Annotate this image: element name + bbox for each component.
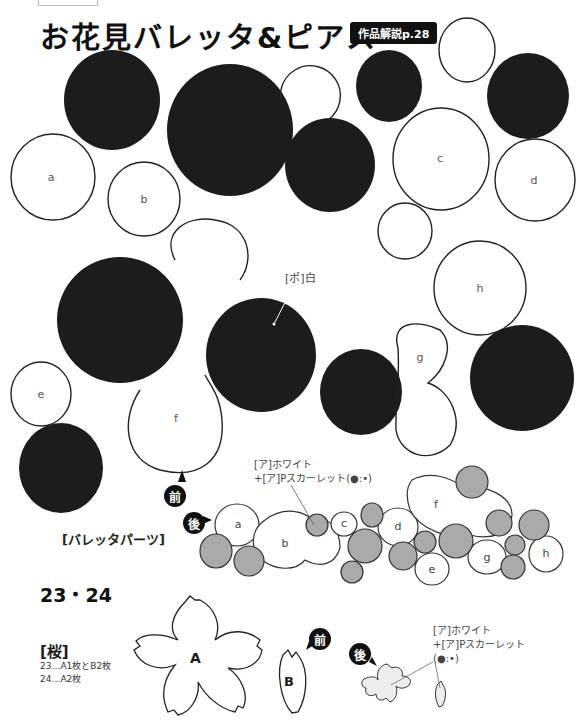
svg-text:h: h xyxy=(477,282,484,295)
sakura-yarn-callout: [ア]ホワイト +[ア]Pスカーレット (●:•) xyxy=(433,624,525,666)
sakura-heading: [桜] xyxy=(40,640,69,661)
barrette-yarn-callout: [ア]ホワイト +[ア]Pスカーレット(●:•) xyxy=(254,458,372,486)
piece-a-label: A xyxy=(190,650,201,666)
barrette-parts-title: [バレッタパーツ] xyxy=(62,529,165,548)
model-numbers: 23・24 xyxy=(40,580,112,607)
sakura-yarn-line-2: +[ア]Pスカーレット xyxy=(433,638,525,652)
sakura-front-bubble: 前 xyxy=(309,628,331,650)
svg-text:b: b xyxy=(282,537,289,550)
sakura-back-bubble: 後 xyxy=(349,643,371,665)
svg-text:f: f xyxy=(174,412,179,425)
back-bubble: 後 xyxy=(183,512,205,534)
pompom-annotation: [ポ]白 xyxy=(285,269,316,285)
svg-text:a: a xyxy=(235,518,242,531)
piece-b-label: B xyxy=(284,674,294,689)
svg-text:g: g xyxy=(417,351,424,364)
sakura-count-info: 23…A1枚とB2枚 24…A2枚 xyxy=(40,660,111,686)
svg-text:h: h xyxy=(543,547,550,560)
svg-text:d: d xyxy=(395,520,402,533)
sakura-small-back xyxy=(362,664,411,702)
sakura-yarn-line-1: [ア]ホワイト xyxy=(433,624,525,638)
svg-text:e: e xyxy=(38,388,45,401)
svg-text:a: a xyxy=(48,171,55,184)
sakura-small-petal xyxy=(435,681,445,707)
svg-text:g: g xyxy=(484,551,491,564)
sakura-yarn-line-3: (●:•) xyxy=(433,652,525,666)
sakura-line-23: 23…A1枚とB2枚 xyxy=(40,660,111,673)
front-bubble: 前 xyxy=(164,485,186,507)
yarn-line-1: [ア]ホワイト xyxy=(254,458,372,472)
svg-text:c: c xyxy=(437,152,443,165)
svg-text:e: e xyxy=(429,563,436,576)
sakura-line-24: 24…A2枚 xyxy=(40,673,111,686)
pattern-diagram: a b c d e f g h xyxy=(0,0,586,725)
svg-text:d: d xyxy=(531,174,538,187)
svg-text:b: b xyxy=(141,193,148,206)
yarn-line-2: +[ア]Pスカーレット(●:•) xyxy=(254,472,372,486)
svg-text:c: c xyxy=(341,517,347,530)
